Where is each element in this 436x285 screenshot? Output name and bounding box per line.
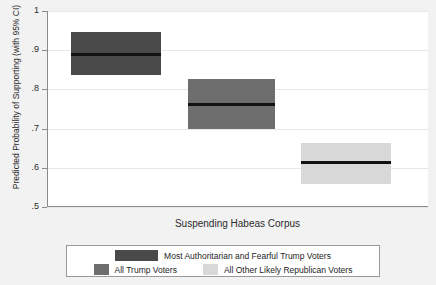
chart-legend: Most Authoritarian and Fearful Trump Vot…: [66, 245, 380, 277]
y-tick-mark: [42, 129, 47, 130]
legend-swatch-icon: [203, 264, 218, 275]
legend-item-all-trump-voters: All Trump Voters: [94, 264, 177, 275]
y-tick-label: .7: [8, 124, 39, 133]
y-tick-label: 1: [8, 6, 39, 15]
gridline: [48, 11, 428, 12]
confidence-interval-bar: [301, 143, 391, 184]
legend-label: All Trump Voters: [115, 265, 177, 275]
y-tick-mark: [42, 89, 47, 90]
y-tick-mark: [42, 207, 47, 208]
y-tick-label: .5: [8, 202, 39, 211]
x-axis-label: Suspending Habeas Corpus: [47, 218, 428, 229]
y-tick-mark: [42, 50, 47, 51]
point-estimate-line: [188, 103, 275, 106]
y-tick-mark: [42, 168, 47, 169]
legend-label: All Other Likely Republican Voters: [224, 265, 353, 275]
legend-row-secondary: All Trump Voters All Other Likely Republ…: [67, 263, 379, 276]
legend-label: Most Authoritarian and Fearful Trump Vot…: [164, 251, 331, 261]
plot-area: [48, 11, 428, 206]
plot-frame: [47, 11, 428, 207]
y-tick-label: .9: [8, 45, 39, 54]
point-estimate-line: [301, 161, 391, 164]
chart-figure: Predicted Probability of Supporting (wit…: [0, 0, 436, 285]
legend-swatch-icon: [115, 250, 158, 261]
legend-item-most-authoritarian: Most Authoritarian and Fearful Trump Vot…: [115, 250, 331, 261]
legend-row-primary: Most Authoritarian and Fearful Trump Vot…: [67, 249, 379, 262]
y-tick-label: .6: [8, 163, 39, 172]
y-tick-label: .8: [8, 84, 39, 93]
legend-item-other-republican-voters: All Other Likely Republican Voters: [203, 264, 353, 275]
point-estimate-line: [71, 53, 161, 56]
gridline: [48, 207, 428, 208]
legend-swatch-icon: [94, 264, 109, 275]
y-tick-mark: [42, 11, 47, 12]
confidence-interval-bar: [188, 79, 275, 129]
confidence-interval-bar: [71, 32, 161, 75]
